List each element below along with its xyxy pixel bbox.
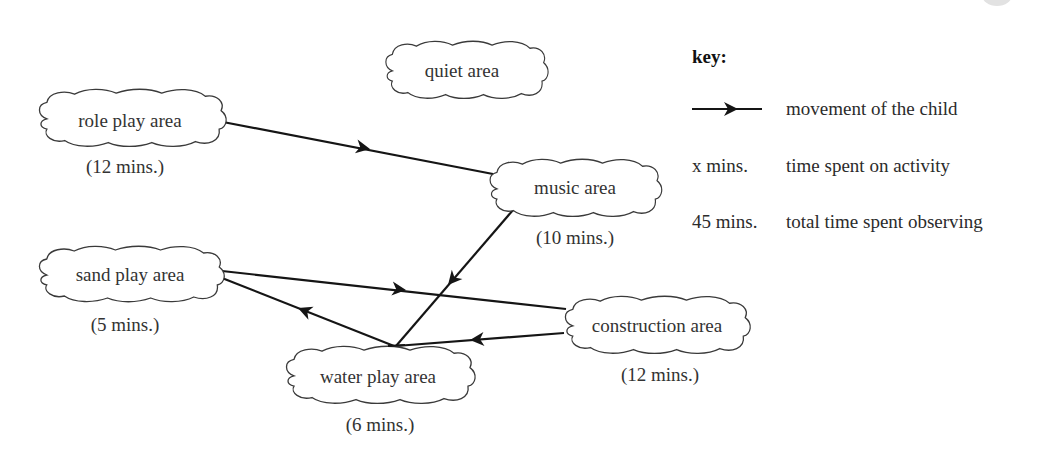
node-label: sand play area <box>76 264 185 285</box>
key-row-total-time: 45 mins. total time spent observing <box>692 210 757 234</box>
node-label: water play area <box>320 366 437 387</box>
key-label: 45 mins. <box>692 211 757 232</box>
node-label: music area <box>534 177 616 198</box>
edge-role-play-to-music <box>223 122 493 174</box>
key-label: x mins. <box>692 155 748 176</box>
key-description: time spent on activity <box>786 154 950 178</box>
node-water-play-area: water play area (6 mins.) <box>287 346 476 435</box>
time-label: (12 mins.) <box>86 156 164 178</box>
arrow-up-left-icon <box>295 301 313 319</box>
node-role-play-area: role play area (12 mins.) <box>39 89 226 177</box>
edge-join <box>388 345 405 346</box>
time-label: (12 mins.) <box>621 364 699 386</box>
key-title: key: <box>692 46 727 68</box>
node-sand-play-area: sand play area (5 mins.) <box>39 246 224 335</box>
time-label: (6 mins.) <box>346 414 415 436</box>
node-construction-area: construction area (12 mins.) <box>565 296 750 385</box>
node-label: construction area <box>592 315 723 336</box>
key-description: movement of the child <box>786 97 957 121</box>
arrowheads <box>295 139 484 347</box>
movement-arrow-icon <box>692 97 782 121</box>
edge-joins <box>388 345 405 346</box>
node-label: quiet area <box>425 60 500 81</box>
edges <box>222 122 566 346</box>
time-label: (10 mins.) <box>536 227 614 249</box>
key-row-activity-time: x mins. time spent on activity <box>692 154 748 178</box>
time-label: (5 mins.) <box>91 314 160 336</box>
key-description: total time spent observing <box>786 210 983 234</box>
node-music-area: music area (10 mins.) <box>490 159 662 248</box>
edge-sand-play-to-construction <box>222 271 566 309</box>
node-label: role play area <box>78 110 182 131</box>
node-quiet-area: quiet area <box>386 41 548 98</box>
